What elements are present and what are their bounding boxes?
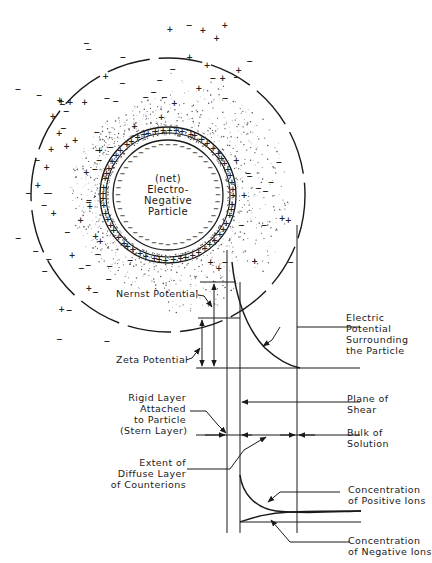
negative-ions-leader [271,520,350,542]
diffuse-positive-ion: + [207,258,214,267]
diffuse-negative-ion: − [15,85,22,94]
diffuse-negative-ion: − [119,79,126,88]
diffuse-positive-ion: + [43,163,50,172]
particle-label-line-4: Particle [138,206,198,217]
diffuse-negative-ion: − [93,128,100,137]
surface-negative-charge: − [115,191,121,199]
diffuse-negative-ion: − [120,53,127,62]
diffuse-negative-ion: − [107,143,114,152]
diffuse-negative-ion: − [210,74,217,83]
diffuse-positive-ion: + [34,181,41,190]
positive-ions-label-line-2: of Positive Ions [348,495,426,506]
diffuse-negative-ion: − [91,165,98,174]
diffuse-negative-ion: − [238,221,245,230]
surface-negative-charge: − [116,184,122,192]
surface-negative-charge: − [144,236,150,244]
nernst-leader [198,295,212,307]
diffuse-positive-ion: + [241,191,248,200]
stern-positive-ion: + [191,131,198,140]
bulk-of-solution-label-line-2: Solution [347,438,389,449]
diffuse-negative-ion: − [161,93,168,102]
surface-negative-charge: − [172,240,178,248]
zeta-potential-label: Zeta Potential [116,354,188,365]
diffuse-layer-label-line-3: of Counterions [106,479,186,490]
diffuse-negative-ion: − [276,158,283,167]
diffuse-positive-ion: + [49,112,56,121]
diffuse-negative-ion: − [56,335,63,344]
negative-ions-label: Concentration of Negative Ions [348,535,432,557]
diffuse-negative-ion: − [262,187,269,196]
surface-negative-charge: − [203,224,209,232]
surface-negative-charge: − [179,239,185,247]
diffuse-negative-ion: − [104,337,111,346]
diffuse-positive-ion: + [63,142,70,151]
diffuse-positive-ion: + [222,21,229,30]
diffuse-negative-ion: − [85,261,92,270]
diffuse-negative-ion: − [156,76,163,85]
diffuse-positive-ion: + [233,156,240,165]
diffuse-positive-ion: + [58,97,65,106]
diffuse-negative-ion: − [83,39,90,48]
surface-negative-charge: − [138,149,144,157]
stern-positive-ion: + [201,244,208,253]
diffuse-positive-ion: + [171,99,178,108]
plane-of-shear-label: Plane of Shear [347,393,388,415]
diffuse-negative-ion: − [233,73,240,82]
diffuse-negative-ion: − [15,234,22,243]
bulk-of-solution-label-line-1: Bulk of [347,427,389,438]
diffuse-positive-ion: + [72,136,79,145]
positive-ions-leader [268,492,340,502]
diffuse-positive-ion: + [216,264,223,273]
stern-positive-ion: + [179,127,186,136]
surface-negative-charge: − [192,233,198,241]
electric-potential-leader [263,327,280,346]
diffuse-negative-ion: − [25,189,32,198]
diffuse-negative-ion: − [41,267,48,276]
diffuse-negative-ion: − [41,201,48,210]
stern-positive-ion: + [170,255,177,264]
diffuse-negative-ion: − [245,169,252,178]
diffuse-positive-ion: + [77,216,84,225]
diffuse-positive-ion: + [67,98,74,107]
diffuse-positive-ion: + [285,216,292,225]
diffuse-negative-ion: − [45,255,52,264]
positive-ions-label: Concentration of Positive Ions [348,484,426,506]
diffuse-positive-ion: + [58,305,65,314]
surface-negative-charge: − [144,145,150,153]
diffuse-negative-ion: − [127,256,134,265]
diffuse-negative-ion: − [261,221,268,230]
stern-positive-ion: + [152,127,159,136]
particle-label-line-3: Negative [138,195,198,206]
diffuse-negative-ion: − [186,21,193,30]
stern-positive-ion: + [151,254,158,263]
diffuse-positive-ion: + [204,61,211,70]
electric-potential-label-line-3: Surrounding [346,334,408,345]
surface-negative-charge: − [138,233,144,241]
stern-positive-ion: + [137,249,144,258]
diffuse-positive-ion: + [97,237,104,246]
surface-negative-charge: − [132,229,138,237]
diffuse-positive-ion: + [158,113,165,122]
electric-potential-label-line-1: Electric [346,312,408,323]
diffuse-positive-ion: + [186,53,193,62]
diffuse-negative-ion: − [103,94,110,103]
surface-negative-charge: − [116,198,122,206]
diffuse-positive-ion: + [251,257,258,266]
rigid-layer-label-line-3: to Particle [120,414,186,425]
diffuse-negative-ion: − [150,88,157,97]
diffuse-positive-ion: + [69,251,76,260]
diffuse-layer-label: Extent of Diffuse Layer of Counterions [106,457,186,490]
diffuse-negative-ion: − [92,288,99,297]
diffuse-positive-ion: + [83,168,90,177]
diffuse-negative-ion: − [46,189,53,198]
stern-positive-ion: + [162,256,169,265]
diffuse-negative-ion: − [94,146,101,155]
diffuse-negative-ion: − [106,262,113,271]
diffuse-negative-ion: − [268,178,275,187]
surface-negative-charge: − [158,240,164,248]
surface-negative-charge: − [179,143,185,151]
surface-negative-charge: − [117,205,123,213]
diffuse-positive-ion: + [131,122,138,131]
diffuse-positive-ion: + [200,26,207,35]
